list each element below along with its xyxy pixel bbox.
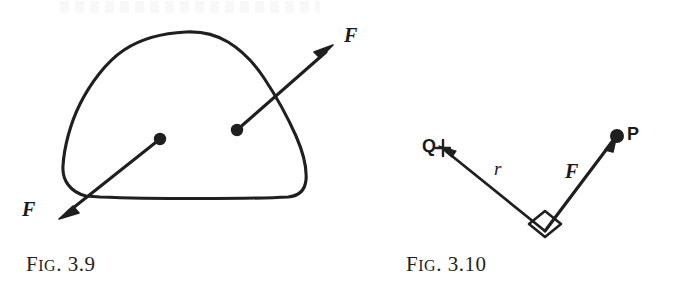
figure-sheet: [0, 0, 679, 299]
caption-prefix-letter: F: [26, 252, 38, 276]
force-vector-label-f: F: [565, 160, 578, 183]
point-label-q: Q: [422, 136, 436, 157]
force-vector-label-lower-left: F: [22, 198, 35, 221]
application-point-lower: [154, 133, 166, 145]
figure-3-9-group: [59, 32, 333, 219]
caption-prefix-letter: F: [406, 252, 418, 276]
radius-label-r: r: [494, 158, 501, 180]
point-label-p: P: [627, 124, 639, 145]
force-vector-lower-left-shaft: [68, 139, 160, 212]
figure-caption-3-9: FIG. 3.9: [26, 252, 96, 277]
rigid-body-outline: [63, 32, 306, 199]
figure-3-10-group: [436, 129, 624, 237]
radius-segment-r: [439, 146, 545, 231]
force-vector-upper-right-shaft: [237, 52, 326, 130]
point-p-dot: [610, 129, 624, 143]
force-vector-f-fig310: [545, 129, 624, 231]
caption-number: . 3.10: [436, 252, 486, 276]
force-vector-upper-right: [231, 45, 333, 136]
caption-smallcaps: IG: [38, 257, 56, 274]
force-vector-label-upper-right: F: [344, 24, 357, 47]
caption-smallcaps: IG: [418, 257, 436, 274]
force-vector-lower-left-arrowhead: [59, 206, 79, 219]
caption-number: . 3.9: [56, 252, 95, 276]
force-vector-lower-left: [59, 133, 166, 219]
figure-caption-3-10: FIG. 3.10: [406, 252, 487, 277]
application-point-upper: [231, 124, 243, 136]
